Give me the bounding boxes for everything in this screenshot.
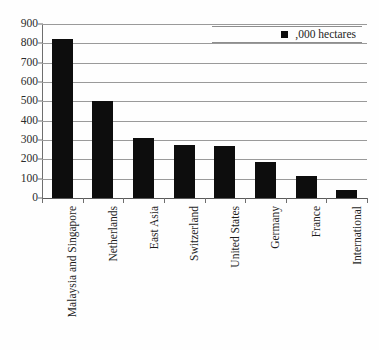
x-axis-category-label: Malaysia and Singapore — [67, 206, 79, 317]
x-tick-mark — [164, 198, 165, 203]
bar — [214, 146, 235, 198]
x-tick-mark — [83, 198, 84, 203]
y-tick-label: 700 — [6, 57, 38, 69]
bar — [296, 176, 317, 198]
gridline-500 — [42, 101, 367, 102]
gridline-900 — [42, 24, 367, 25]
plot-area — [42, 24, 367, 198]
bar-chart: 0100200300400500600700800900 Malaysia an… — [0, 0, 379, 350]
x-axis-category-label: Germany — [270, 206, 282, 249]
bar — [92, 101, 113, 198]
x-tick-mark — [42, 198, 43, 203]
x-axis-category-label: Switzerland — [189, 206, 201, 261]
y-tick-label: 600 — [6, 76, 38, 88]
y-tick-label: 800 — [6, 38, 38, 50]
legend: ,000 hectares — [212, 26, 362, 43]
y-axis: 0100200300400500600700800900 — [0, 24, 38, 199]
x-axis-category-label: Netherlands — [108, 206, 120, 262]
legend-label: ,000 hectares — [295, 29, 356, 41]
x-tick-mark — [367, 198, 368, 203]
gridline-700 — [42, 63, 367, 64]
bar — [255, 162, 276, 198]
y-tick-label: 900 — [6, 18, 38, 30]
x-axis-category-label: United States — [230, 206, 242, 268]
gridline-200 — [42, 159, 367, 160]
y-tick-label: 500 — [6, 96, 38, 108]
gridline-100 — [42, 179, 367, 180]
y-tick-label: 100 — [6, 173, 38, 185]
bar — [174, 145, 195, 198]
x-axis-category-label: France — [311, 206, 323, 237]
bar — [52, 39, 73, 198]
x-tick-mark — [123, 198, 124, 203]
gridline-300 — [42, 140, 367, 141]
x-tick-mark — [326, 198, 327, 203]
x-tick-mark — [205, 198, 206, 203]
legend-swatch-icon — [281, 31, 288, 38]
y-tick-label: 300 — [6, 134, 38, 146]
y-tick-label: 400 — [6, 115, 38, 127]
gridline-400 — [42, 121, 367, 122]
y-tick-label: 200 — [6, 154, 38, 166]
y-tick-label: 0 — [6, 192, 38, 204]
bar — [336, 190, 357, 198]
gridline-800 — [42, 43, 367, 44]
x-tick-mark — [245, 198, 246, 203]
bar — [133, 138, 154, 198]
gridline-600 — [42, 82, 367, 83]
x-tick-mark — [286, 198, 287, 203]
x-axis-category-label: East Asia — [149, 206, 161, 249]
x-axis-category-label: International — [352, 206, 364, 265]
